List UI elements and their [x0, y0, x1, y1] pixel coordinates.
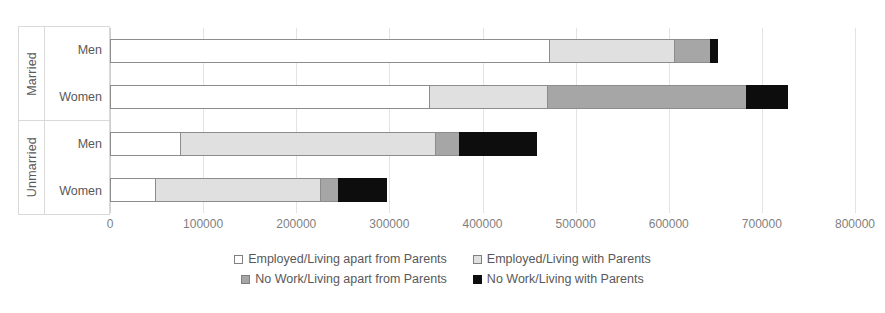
gridline	[762, 28, 763, 213]
x-axis-tick-label: 700000	[742, 217, 782, 231]
legend-label: Employed/Living with Parents	[487, 252, 651, 266]
bar-segment	[746, 85, 788, 109]
legend-swatch-icon	[473, 255, 482, 264]
gridline	[855, 28, 856, 213]
bar-segment	[155, 178, 322, 202]
legend-item-employed-living-apart: Employed/Living apart from Parents	[234, 252, 447, 266]
plot-area	[110, 28, 855, 213]
x-axis-tick-label: 100000	[183, 217, 223, 231]
bar-segment	[710, 39, 718, 63]
bar-segment	[110, 85, 430, 109]
x-axis-tick-label: 500000	[556, 217, 596, 231]
stacked-bar-chart: Married Unmarried Men Women Men Women 01…	[0, 0, 885, 313]
bar-unmarried-men	[110, 132, 536, 156]
x-axis-tick-label: 0	[107, 217, 114, 231]
category-axis: Married Unmarried Men Women Men Women	[18, 26, 110, 215]
category-label-text: Men	[78, 137, 102, 151]
bar-segment	[338, 178, 387, 202]
bar-segment	[180, 132, 436, 156]
category-group-married: Married	[19, 27, 45, 120]
bar-segment	[320, 178, 339, 202]
bar-segment	[459, 132, 537, 156]
category-label-unmarried-men: Men	[45, 120, 109, 168]
legend-item-nowork-living-apart: No Work/Living apart from Parents	[241, 272, 447, 286]
category-label-text: Women	[59, 90, 102, 104]
category-label-unmarried-women: Women	[45, 168, 109, 215]
bar-unmarried-women	[110, 178, 386, 202]
legend-label: No Work/Living apart from Parents	[255, 272, 447, 286]
x-axis-tick-label: 800000	[835, 217, 875, 231]
category-group-column: Married Unmarried	[19, 27, 45, 214]
chart-legend: Employed/Living apart from Parents Emplo…	[0, 252, 885, 286]
bar-segment	[110, 39, 550, 63]
legend-swatch-icon	[241, 275, 250, 284]
legend-label: Employed/Living apart from Parents	[248, 252, 447, 266]
bar-segment	[429, 85, 547, 109]
legend-item-employed-living-with: Employed/Living with Parents	[473, 252, 651, 266]
legend-item-nowork-living-with: No Work/Living with Parents	[473, 272, 644, 286]
category-item-column: Men Women Men Women	[45, 27, 109, 214]
bar-segment	[549, 39, 675, 63]
category-label-text: Women	[59, 184, 102, 198]
bar-segment	[674, 39, 710, 63]
legend-swatch-icon	[473, 275, 482, 284]
category-label-married-men: Men	[45, 27, 109, 74]
category-group-label: Married	[25, 52, 39, 96]
legend-swatch-icon	[234, 255, 243, 264]
category-label-married-women: Women	[45, 74, 109, 121]
bar-segment	[435, 132, 460, 156]
category-group-unmarried: Unmarried	[19, 120, 45, 214]
bar-married-women	[110, 85, 787, 109]
legend-label: No Work/Living with Parents	[487, 272, 644, 286]
bar-segment	[110, 178, 156, 202]
bar-segment	[110, 132, 181, 156]
category-label-text: Men	[78, 43, 102, 57]
x-axis-tick-label: 200000	[276, 217, 316, 231]
bar-married-men	[110, 39, 717, 63]
legend-row: No Work/Living apart from Parents No Wor…	[241, 272, 643, 286]
x-axis-tick-label: 600000	[649, 217, 689, 231]
value-axis: 0100000200000300000400000500000600000700…	[110, 213, 855, 237]
x-axis-tick-label: 300000	[369, 217, 409, 231]
x-axis-tick-label: 400000	[462, 217, 502, 231]
category-group-label: Unmarried	[25, 137, 39, 197]
legend-row: Employed/Living apart from Parents Emplo…	[234, 252, 651, 266]
bar-segment	[547, 85, 747, 109]
